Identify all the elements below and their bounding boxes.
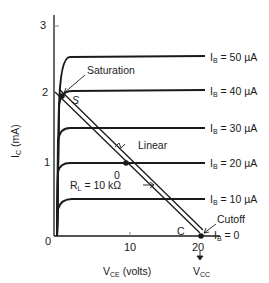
y-tick-label-2: 2 (42, 87, 48, 98)
linear-label: Linear (138, 140, 167, 151)
curve-ib-50 (57, 56, 205, 236)
y-tick-label-3: 3 (40, 20, 46, 31)
x-tick-label-20: 20 (192, 242, 204, 253)
ib-label-40: IB = 40 µA (210, 86, 257, 98)
saturation-label: Saturation (87, 65, 135, 76)
cutoff-point (198, 233, 204, 239)
ib-label-20: IB = 20 µA (210, 158, 257, 170)
x-axis-label: VCE (volts) (103, 266, 151, 278)
y-tick-label-1: 1 (44, 157, 50, 168)
quiescent-point (123, 160, 129, 166)
load-line (55, 89, 203, 233)
point-s-label: S (72, 95, 79, 106)
load-line-label: RL = 10 kΩ (70, 180, 121, 192)
ib-label-0: IB = 0 (214, 230, 239, 242)
linear-bracket (115, 143, 125, 148)
y-axis-label: IC (mA) (9, 124, 22, 158)
x-tick-label-10: 10 (124, 242, 136, 253)
saturation-point (59, 93, 65, 99)
y-tick-label-0: 0 (45, 236, 51, 247)
ib-label-50: IB = 50 µA (210, 52, 257, 64)
ib-curves (57, 56, 205, 236)
point-c-label: C (177, 226, 185, 237)
vcc-label: VCC (193, 266, 210, 278)
cutoff-label: Cutoff (217, 214, 245, 225)
ib-label-10: IB = 10 µA (210, 194, 257, 206)
ib-label-30: IB = 30 µA (210, 123, 257, 135)
